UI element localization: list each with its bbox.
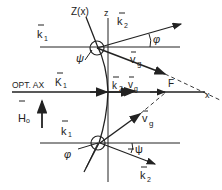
vg-top-label: v [130, 53, 136, 65]
k2-top-arrow [97, 24, 181, 48]
vg-axis-label: v [128, 79, 133, 90]
psi-bottom-arc [131, 143, 133, 153]
x-axis-label: x [205, 90, 210, 100]
h0-sub: o [26, 117, 30, 124]
phi-top-label: φ [153, 33, 160, 45]
diagram-canvas: Z(x) z x OPT. AX F k 1 K 1 k 1 k 2 k 2 k… [0, 0, 222, 190]
vg-axis-sub: g [134, 85, 138, 93]
k2-top-sub: 2 [124, 22, 128, 29]
k1-axis-sub: 1 [63, 82, 67, 89]
h0-label: H [18, 112, 26, 124]
vg-bottom-label: v [142, 112, 148, 124]
k1-axis-label: K [55, 77, 62, 88]
phi-bottom-label: φ [64, 148, 71, 160]
k2-axis-label: k [112, 80, 118, 91]
vg-bottom-arrow [100, 114, 140, 143]
k2-top-label: k [117, 15, 123, 27]
z-axis-label: z [104, 8, 109, 18]
top-ray-left [85, 50, 92, 60]
curve-zx [84, 17, 108, 172]
k1-top-label: k [37, 28, 43, 40]
k1-bottom-sub: 1 [68, 131, 72, 138]
k1-top-sub: 1 [44, 35, 48, 42]
vg-bottom-sub: g [149, 119, 153, 128]
vg-top-sub: g [137, 59, 141, 68]
curve-label: Z(x) [71, 6, 89, 17]
optical-axis-label: OPT. AX [12, 80, 44, 90]
k2-axis-sub: 2 [119, 85, 123, 92]
k1-bottom-label: k [61, 125, 67, 137]
k2-bottom-label: k [140, 169, 146, 181]
k2-bottom-sub: 2 [147, 176, 151, 183]
psi-bottom-label: ψ [135, 143, 143, 155]
psi-top-label: ψ [76, 52, 84, 64]
diagram-svg: Z(x) z x OPT. AX F k 1 K 1 k 1 k 2 k 2 k… [0, 0, 222, 190]
phi-top-arc [149, 34, 151, 47]
focus-label: F [168, 78, 174, 89]
